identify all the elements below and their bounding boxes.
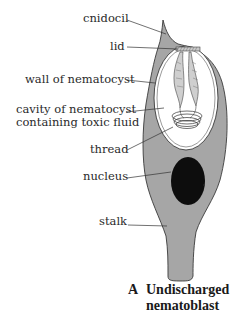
lid: [176, 47, 200, 51]
nematocyst-cavity: [157, 49, 215, 147]
leader-stalk: [128, 225, 167, 226]
caption-letter: A: [128, 282, 139, 297]
label-nucleus: nucleus: [83, 169, 128, 183]
label-lid: lid: [110, 39, 125, 53]
label-stalk: stalk: [99, 214, 128, 228]
label-cnidocil: cnidocil: [83, 11, 129, 25]
leader-cnidocil: [127, 20, 166, 34]
caption-line1: Undischarged: [146, 282, 229, 297]
label-cavity-line1: cavity of nematocyst: [16, 102, 136, 116]
caption-line2: nematoblast: [146, 298, 219, 312]
nematoblast-diagram: cnidocil lid wall of nematocyst cavity o…: [0, 0, 242, 312]
label-thread: thread: [90, 142, 129, 156]
label-wall: wall of nematocyst: [25, 72, 135, 86]
label-cavity-line2: containing toxic fluid: [16, 115, 140, 129]
nucleus: [171, 157, 205, 205]
